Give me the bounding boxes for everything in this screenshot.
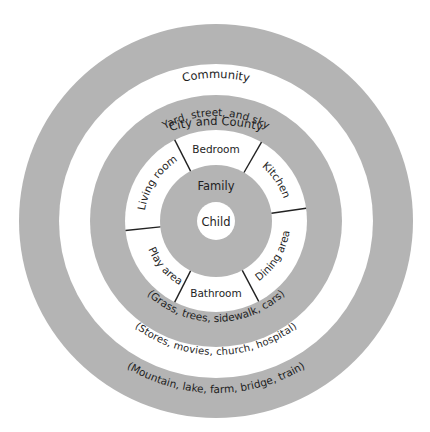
label-room-bathroom: Bathroom [190, 287, 242, 299]
label-room-bedroom: Bedroom [192, 143, 240, 155]
label-family: Family [197, 179, 234, 193]
label-child: Child [201, 215, 230, 229]
concentric-circles-diagram: City and County (Mountain, lake, farm, b… [0, 0, 430, 432]
